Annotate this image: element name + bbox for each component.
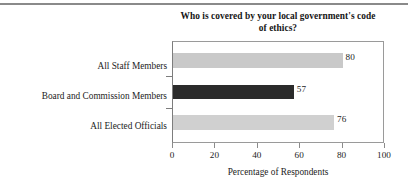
- chart-title-line-2: of ethics?: [172, 23, 384, 35]
- category-label-all-staff-members: All Staff Members: [0, 61, 167, 71]
- x-axis-tick-label: 60: [295, 150, 304, 160]
- x-axis-tick-label: 80: [337, 150, 346, 160]
- x-axis-tick-label: 20: [210, 150, 219, 160]
- chart-title: Who is covered by your local government'…: [172, 11, 384, 34]
- bar-value-label-all-elected-officials: 76: [337, 114, 346, 124]
- x-axis-tick-label: 100: [377, 150, 391, 160]
- x-axis-tick: [384, 143, 385, 148]
- bar-value-label-board-and-commission-members: 57: [297, 84, 306, 94]
- x-axis-tick: [257, 143, 258, 148]
- bar-all-staff-members: [173, 53, 343, 68]
- bar-board-and-commission-members: [173, 85, 294, 99]
- chart-title-line-1: Who is covered by your local government'…: [172, 11, 384, 23]
- category-label-board-and-commission-members: Board and Commission Members: [0, 91, 167, 101]
- chart-figure: Who is covered by your local government'…: [0, 0, 408, 191]
- header-rule: [0, 3, 408, 5]
- category-label-all-elected-officials: All Elected Officials: [0, 121, 167, 131]
- x-axis-tick-label: 40: [252, 150, 261, 160]
- x-axis-tick: [214, 143, 215, 148]
- x-axis-tick: [172, 143, 173, 148]
- x-axis-tick-label: 0: [170, 150, 175, 160]
- x-axis-title: Percentage of Respondents: [172, 167, 384, 177]
- x-axis-tick: [299, 143, 300, 148]
- bar-all-elected-officials: [173, 115, 334, 130]
- x-axis-tick: [342, 143, 343, 148]
- bar-value-label-all-staff-members: 80: [346, 52, 355, 62]
